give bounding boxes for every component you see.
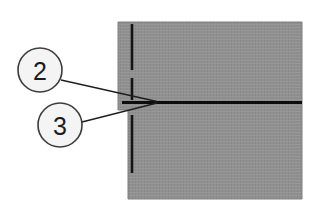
specimen-outline bbox=[118, 22, 302, 199]
callout-2[interactable]: 2 bbox=[18, 48, 62, 92]
callout-label-2: 2 bbox=[33, 57, 47, 85]
specimen-block bbox=[118, 22, 302, 199]
callout-label-3: 3 bbox=[53, 112, 67, 140]
callout-3[interactable]: 3 bbox=[38, 103, 82, 147]
diagram-canvas: 2 3 bbox=[0, 0, 319, 207]
diagram-figure: 2 3 bbox=[0, 0, 319, 207]
